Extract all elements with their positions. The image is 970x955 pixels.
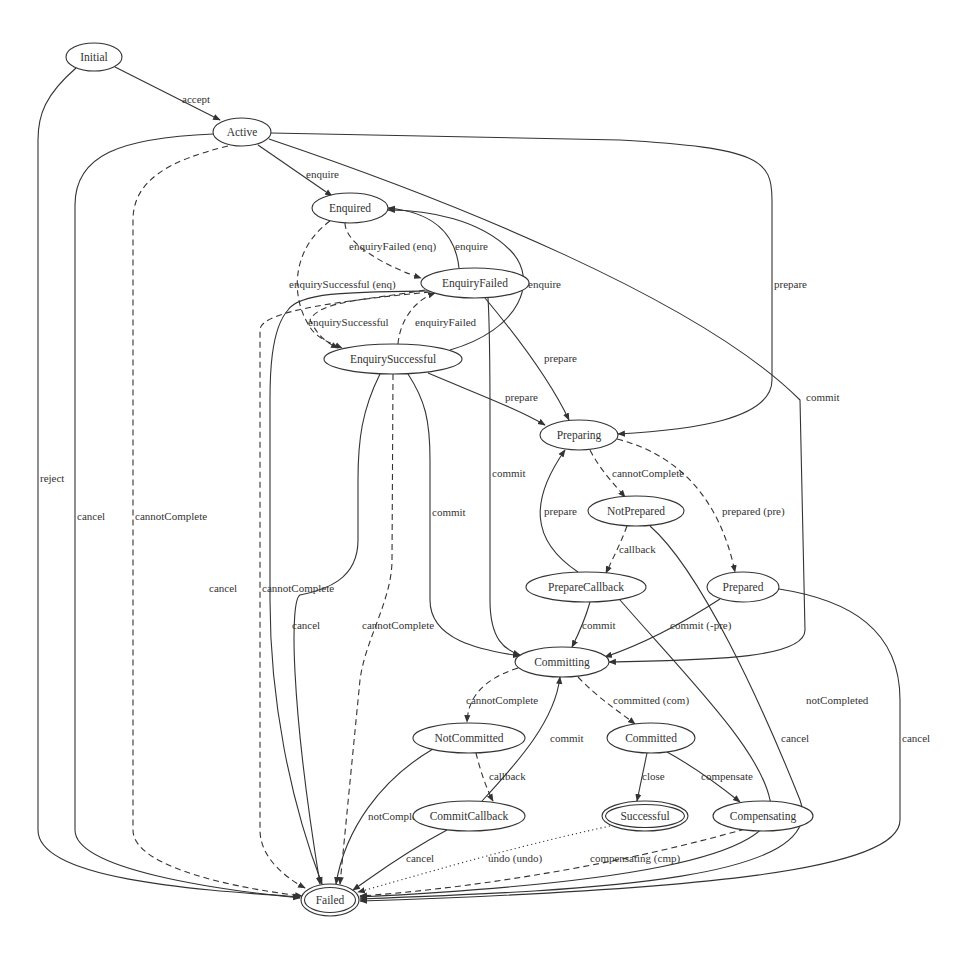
- edge-label: enquirySuccessful (enq): [289, 278, 396, 291]
- state-label: Enquired: [329, 202, 371, 215]
- state-label: Compensating: [730, 810, 797, 823]
- state-label: Preparing: [557, 429, 602, 442]
- edge-label: commit: [550, 732, 584, 744]
- state-label: Failed: [316, 894, 345, 906]
- edge-label: accept: [182, 93, 210, 105]
- state-label: Active: [227, 126, 258, 138]
- state-node-committing: Committing: [515, 647, 609, 677]
- edge-label: prepare: [544, 352, 577, 364]
- edge-label: close: [642, 770, 665, 782]
- edge-label: cannotComplete: [612, 467, 684, 479]
- edge-label: enquiryFailed (enq): [349, 240, 436, 253]
- edge-label: callback: [489, 770, 526, 782]
- edge-label: callback: [619, 543, 656, 555]
- edge-label: enquire: [528, 278, 561, 290]
- edge-label: prepare: [505, 391, 538, 403]
- edge-successful-to-failed: [358, 826, 610, 892]
- state-node-committed: Committed: [607, 723, 695, 753]
- edge-label: prepare: [774, 278, 807, 290]
- state-label: Committed: [625, 732, 677, 744]
- edge-label: cancel: [902, 732, 930, 744]
- state-node-preparing: Preparing: [540, 420, 618, 450]
- edge-label: commit: [432, 506, 466, 518]
- nodes-layer: InitialActiveEnquiredEnquiryFailedEnquir…: [66, 43, 813, 916]
- state-node-failed: Failed: [301, 884, 359, 916]
- edge-label: reject: [40, 472, 64, 484]
- edge-label: committed (com): [613, 694, 689, 707]
- edge-label: enquire: [306, 168, 339, 180]
- edge-label: cannotComplete: [466, 694, 538, 706]
- state-label: Prepared: [723, 581, 764, 594]
- edge-initial-to-failed: [38, 68, 300, 897]
- state-node-compensating: Compensating: [713, 801, 813, 831]
- edge-label: commit: [806, 391, 840, 403]
- edge-label: enquiryFailed: [415, 316, 477, 328]
- edge-label: enquire: [455, 240, 488, 252]
- state-node-not-committed: NotCommitted: [413, 723, 525, 753]
- state-node-not-prepared: NotPrepared: [588, 496, 684, 526]
- edge-label: cannotComplete: [362, 619, 434, 631]
- state-node-active: Active: [213, 118, 271, 146]
- edge-label: cancel: [209, 582, 237, 594]
- state-label: EnquirySuccessful: [350, 353, 436, 366]
- edge-label: cannotComplete: [135, 510, 207, 522]
- edge-label: commit: [492, 467, 526, 479]
- edges-layer: [38, 67, 900, 901]
- edge-label: undo (undo): [488, 852, 542, 865]
- edge-label: cancel: [292, 619, 320, 631]
- state-label: NotPrepared: [607, 505, 665, 518]
- state-node-initial: Initial: [66, 43, 122, 71]
- state-node-enquiry-failed: EnquiryFailed: [421, 268, 529, 298]
- edge-label: notCompleted: [806, 694, 869, 706]
- state-label: NotCommitted: [435, 732, 504, 744]
- state-diagram: acceptrejectenquirecancelcannotCompletep…: [0, 0, 970, 955]
- state-node-successful: Successful: [602, 801, 688, 831]
- edge-label: compensate: [701, 770, 753, 782]
- state-label: Committing: [534, 656, 590, 669]
- edge-label: cancel: [781, 732, 809, 744]
- state-label: PrepareCallback: [548, 581, 624, 594]
- edge-label: enquirySuccessful: [308, 316, 389, 328]
- state-node-prepared: Prepared: [707, 572, 779, 602]
- edge-label: prepared (pre): [722, 505, 785, 518]
- edge-label: commit: [582, 619, 616, 631]
- edge-label: cancel: [77, 510, 105, 522]
- state-node-commit-callback: CommitCallback: [413, 801, 525, 831]
- edge-label: compensating (cmp): [590, 852, 680, 865]
- edge-label: commit (-pre): [670, 619, 732, 632]
- edge-label: cannotComplete: [262, 582, 334, 594]
- state-label: EnquiryFailed: [442, 277, 508, 290]
- edge-label: cancel: [406, 852, 434, 864]
- state-node-enquired: Enquired: [312, 193, 388, 223]
- state-label: Successful: [620, 810, 669, 822]
- state-node-prepare-callback: PrepareCallback: [526, 572, 646, 602]
- state-node-enquiry-successful: EnquirySuccessful: [324, 344, 462, 374]
- state-label: Initial: [80, 51, 107, 63]
- state-label: CommitCallback: [430, 810, 509, 822]
- edge-label: prepare: [544, 505, 577, 517]
